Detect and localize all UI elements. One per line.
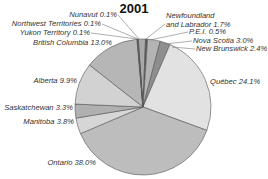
slice-label: P.E.I. 0.5%	[189, 27, 226, 36]
pie-chart: Nunavut 0.1%Northwest Territories 0.1%Yu…	[0, 0, 268, 179]
slice-label: Saskatchewan 3.3%	[4, 103, 73, 112]
slice-label: Nunavut 0.1%	[69, 10, 117, 19]
slice-label: Québec 24.1%	[210, 77, 260, 86]
chart-root: 2001 Nunavut 0.1%Northwest Territories 0…	[0, 0, 268, 179]
slice-label: Manitoba 3.8%	[23, 117, 74, 126]
leader-line	[165, 41, 192, 44]
leader-line	[150, 32, 188, 40]
slice-label: British Columbia 13.0%	[33, 38, 112, 47]
leader-line	[146, 24, 165, 39]
slice-label: Northwest Territories 0.1%	[12, 19, 101, 28]
slice-label: New Brunswick 2.4%	[196, 44, 268, 53]
pie-slices	[75, 39, 211, 175]
leader-line	[118, 15, 139, 39]
slice-label: Alberta 9.9%	[33, 76, 78, 85]
slice-label: Yukon Territory 0.1%	[20, 28, 91, 37]
slice-label: Ontario 38.0%	[47, 158, 96, 167]
slice-label: Newfoundlandand Labrador 1.7%	[166, 11, 231, 29]
